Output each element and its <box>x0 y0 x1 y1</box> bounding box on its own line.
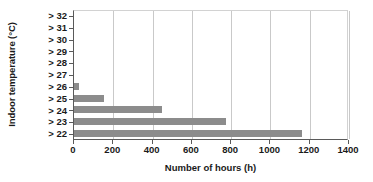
bar-row <box>74 46 347 58</box>
y-axis-tick-labels: > 32 > 31 > 30 > 29 > 28 > 27 > 26 > 25 … <box>22 10 70 140</box>
x-tick-label: 1200 <box>298 145 319 155</box>
x-tick-label: 1400 <box>337 145 358 155</box>
bar <box>74 106 162 113</box>
y-tick-label: > 31 <box>22 22 70 34</box>
bar-row <box>74 104 347 116</box>
bar-row <box>74 116 347 128</box>
y-tick-label: > 25 <box>22 93 70 105</box>
bar-row <box>74 127 347 139</box>
x-tick-label: 400 <box>144 145 160 155</box>
bar <box>74 130 302 137</box>
y-tick-label: > 22 <box>22 128 70 140</box>
y-tick-label: > 32 <box>22 10 70 22</box>
y-tick-label: > 28 <box>22 57 70 69</box>
y-tick-label: > 29 <box>22 45 70 57</box>
bar-row <box>74 23 347 35</box>
y-tick-label: > 26 <box>22 81 70 93</box>
bar <box>74 83 79 90</box>
gridline <box>349 11 350 139</box>
bar <box>74 95 104 102</box>
x-tick-label: 600 <box>183 145 199 155</box>
y-tick-label: > 23 <box>22 116 70 128</box>
bar-row <box>74 81 347 93</box>
y-tick-label: > 30 <box>22 34 70 46</box>
bar-row <box>74 92 347 104</box>
x-tick-label: 200 <box>104 145 120 155</box>
y-tick-label: > 24 <box>22 105 70 117</box>
x-tick-label: 0 <box>70 145 75 155</box>
x-axis-tick-labels: 0200400600800100012001400 <box>73 145 348 158</box>
bar-chart: Indoor temperature (°C) > 32 > 31 > 30 >… <box>0 0 373 182</box>
y-axis-title: Indoor temperature (°C) <box>0 0 22 148</box>
y-axis-title-text: Indoor temperature (°C) <box>6 22 17 126</box>
bar-row <box>74 11 347 23</box>
plot-area <box>73 10 348 140</box>
x-axis-title: Number of hours (h) <box>73 162 348 173</box>
x-tick-label: 1000 <box>259 145 280 155</box>
bar-row <box>74 34 347 46</box>
y-tick-label: > 27 <box>22 69 70 81</box>
bar <box>74 118 226 125</box>
bars-layer <box>74 11 347 139</box>
x-tick-label: 800 <box>222 145 238 155</box>
bar-row <box>74 58 347 70</box>
bar-row <box>74 69 347 81</box>
